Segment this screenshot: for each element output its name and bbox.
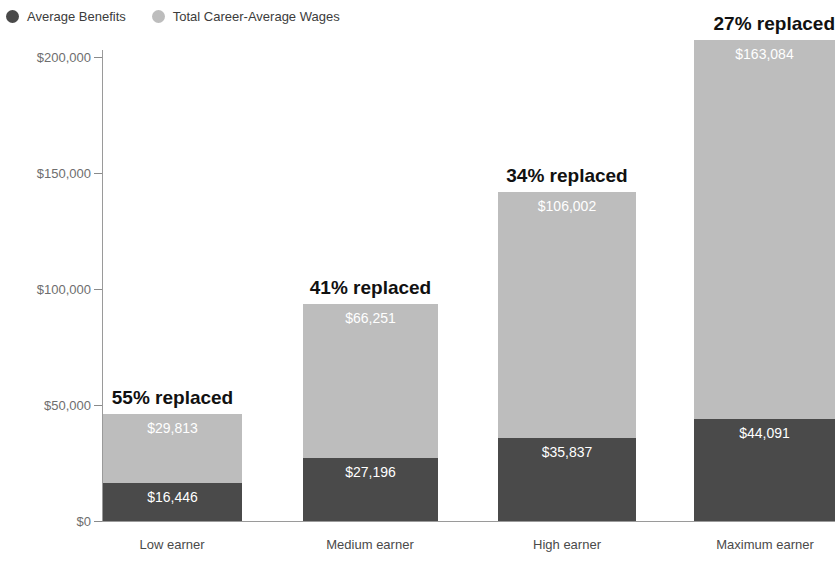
bar-annotation-low-earner: 55% replaced bbox=[112, 387, 233, 409]
bar-segment-wages-low-earner[interactable]: $29,813 bbox=[103, 414, 242, 483]
bar-annotation-medium-earner: 41% replaced bbox=[310, 277, 431, 299]
x-category-label-medium-earner: Medium earner bbox=[326, 537, 413, 552]
y-tick-label-200000: $200,000 bbox=[37, 50, 91, 65]
y-tick-label-100000: $100,000 bbox=[37, 282, 91, 297]
y-tick-label-50000: $50,000 bbox=[44, 398, 91, 413]
y-tick-label-150000: $150,000 bbox=[37, 166, 91, 181]
bar-segment-wages-high-earner[interactable]: $106,002 bbox=[498, 192, 636, 438]
bar-value-label-benefits-low-earner: $16,446 bbox=[103, 489, 242, 505]
x-category-label-maximum-earner: Maximum earner bbox=[716, 537, 814, 552]
x-category-label-high-earner: High earner bbox=[533, 537, 601, 552]
bar-segment-benefits-high-earner[interactable]: $35,837 bbox=[498, 438, 636, 521]
bar-value-label-wages-maximum-earner: $163,084 bbox=[694, 46, 835, 62]
x-category-label-low-earner: Low earner bbox=[139, 537, 204, 552]
bar-group-high-earner[interactable]: 34% replaced $106,002 $35,837 bbox=[498, 192, 636, 521]
stacked-bar-chart: Average Benefits Total Career-Average Wa… bbox=[0, 0, 835, 561]
y-tick-mark-200000 bbox=[94, 57, 102, 58]
bar-value-label-benefits-medium-earner: $27,196 bbox=[303, 464, 438, 480]
bar-value-label-benefits-high-earner: $35,837 bbox=[498, 444, 636, 460]
y-tick-mark-50000 bbox=[94, 405, 102, 406]
bar-annotation-high-earner: 34% replaced bbox=[506, 165, 627, 187]
bar-value-label-wages-medium-earner: $66,251 bbox=[303, 310, 438, 326]
bar-value-label-benefits-maximum-earner: $44,091 bbox=[694, 425, 835, 441]
bar-segment-benefits-medium-earner[interactable]: $27,196 bbox=[303, 458, 438, 521]
y-tick-mark-100000 bbox=[94, 289, 102, 290]
bar-group-medium-earner[interactable]: 41% replaced $66,251 $27,196 bbox=[303, 304, 438, 521]
x-axis-line bbox=[102, 521, 835, 522]
plot-area: $0 $50,000 $100,000 $150,000 $200,000 55… bbox=[0, 0, 835, 561]
bar-group-low-earner[interactable]: 55% replaced $29,813 $16,446 bbox=[103, 414, 242, 521]
bar-value-label-wages-low-earner: $29,813 bbox=[103, 420, 242, 436]
bar-annotation-maximum-earner: 27% replaced bbox=[714, 13, 835, 35]
y-tick-label-0: $0 bbox=[77, 514, 91, 529]
bar-segment-wages-medium-earner[interactable]: $66,251 bbox=[303, 304, 438, 458]
y-tick-mark-150000 bbox=[94, 173, 102, 174]
y-tick-mark-0 bbox=[94, 521, 102, 522]
bar-segment-benefits-low-earner[interactable]: $16,446 bbox=[103, 483, 242, 521]
bar-value-label-wages-high-earner: $106,002 bbox=[498, 198, 636, 214]
bar-segment-benefits-maximum-earner[interactable]: $44,091 bbox=[694, 419, 835, 521]
bar-group-maximum-earner[interactable]: 27% replaced $163,084 $44,091 bbox=[694, 40, 835, 521]
bar-segment-wages-maximum-earner[interactable]: $163,084 bbox=[694, 40, 835, 419]
